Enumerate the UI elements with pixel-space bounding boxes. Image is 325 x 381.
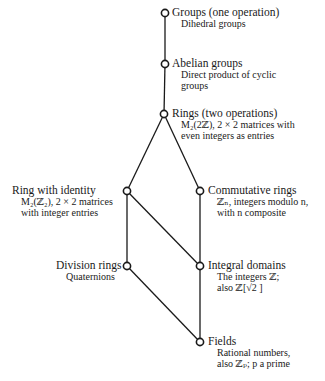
node-commutative xyxy=(196,187,203,194)
node-example: Quaternions xyxy=(56,271,122,282)
node-rings xyxy=(160,110,167,117)
edge-abelian-rings xyxy=(164,64,165,114)
node-example: groups xyxy=(172,80,276,91)
node-ring-identity xyxy=(123,187,130,194)
label-commutative: Commutative rings ℤₙ, integers modulo n,… xyxy=(208,184,308,218)
node-fields xyxy=(196,338,203,345)
node-title: Fields xyxy=(208,335,290,347)
node-example: with integer entries xyxy=(12,207,113,218)
node-example: also ℤ[√2 ] xyxy=(208,282,286,293)
edge-rings-ring-identity xyxy=(127,114,164,191)
node-example: M₂(ℤ₂), 2 × 2 matrices xyxy=(12,196,113,207)
label-fields: Fields Rational numbers, also ℤₚ; p a pr… xyxy=(208,335,290,369)
node-example: The integers ℤ; xyxy=(208,271,286,282)
label-division: Division rings Quaternions xyxy=(56,259,122,282)
node-title: Ring with identity xyxy=(12,184,113,196)
label-integral: Integral domains The integers ℤ; also ℤ[… xyxy=(208,259,286,293)
node-example: Direct product of cyclic xyxy=(172,69,276,80)
node-example: M₂(2ℤ), 2 × 2 matrices with xyxy=(172,119,295,130)
edge-division-fields xyxy=(127,266,200,342)
node-title: Groups (one operation) xyxy=(172,6,279,18)
node-example: with n composite xyxy=(208,207,308,218)
node-groups xyxy=(161,9,168,16)
node-title: Abelian groups xyxy=(172,57,276,69)
node-title: Commutative rings xyxy=(208,184,308,196)
label-groups: Groups (one operation) Dihedral groups xyxy=(172,6,279,29)
node-example: also ℤₚ; p a prime xyxy=(208,358,290,369)
node-integral xyxy=(196,262,203,269)
label-abelian: Abelian groups Direct product of cyclic … xyxy=(172,57,276,91)
node-division xyxy=(123,262,130,269)
node-title: Integral domains xyxy=(208,259,286,271)
node-example: even integers as entries xyxy=(172,130,295,141)
edge-ring-identity-integral xyxy=(127,191,200,266)
node-example: Rational numbers, xyxy=(208,347,290,358)
node-title: Division rings xyxy=(56,259,122,271)
label-rings: Rings (two operations) M₂(2ℤ), 2 × 2 mat… xyxy=(172,107,295,141)
label-ring-identity: Ring with identity M₂(ℤ₂), 2 × 2 matrice… xyxy=(12,184,113,218)
node-title: Rings (two operations) xyxy=(172,107,295,119)
node-example: Dihedral groups xyxy=(172,18,279,29)
node-example: ℤₙ, integers modulo n, xyxy=(208,196,308,207)
node-abelian xyxy=(161,60,168,67)
